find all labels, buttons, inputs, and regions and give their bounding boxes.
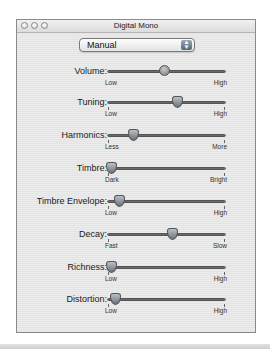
slider-label-harmonics: Harmonics:: [61, 130, 107, 140]
timbre-min-label: Dark: [105, 176, 119, 183]
digital-mono-window: Digital Mono Manual ▲▼ Volume:LowHighTun…: [16, 19, 256, 333]
slider-row-timbre-envelope: Timbre Envelope:LowHigh: [17, 201, 257, 231]
decay-max-label: Slow: [213, 242, 227, 249]
title-bar[interactable]: Digital Mono: [17, 20, 255, 33]
preset-selected-value: Manual: [87, 39, 117, 51]
timbre-slider-track[interactable]: [107, 167, 226, 170]
slider-label-richness: Richness:: [67, 262, 107, 272]
volume-min-label: Low: [105, 79, 117, 86]
tuning-max-label: High: [214, 110, 227, 117]
timbre-slider-knob[interactable]: [106, 162, 117, 174]
richness-slider-knob[interactable]: [106, 261, 117, 273]
slider-row-tuning: Tuning:LowHigh: [17, 102, 257, 132]
slider-label-decay: Decay:: [79, 229, 107, 239]
volume-slider-track[interactable]: [107, 70, 226, 73]
decay-slider-track[interactable]: [107, 233, 226, 236]
slider-label-timbre: Timbre:: [77, 163, 107, 173]
richness-min-label: Low: [105, 275, 117, 282]
preset-popup-button[interactable]: Manual ▲▼: [79, 38, 195, 52]
tuning-slider-track[interactable]: [107, 101, 226, 104]
richness-slider-track[interactable]: [107, 266, 226, 269]
slider-label-timbre-envelope: Timbre Envelope:: [37, 196, 107, 206]
timbre-envelope-slider-knob[interactable]: [114, 195, 125, 207]
harmonics-slider-knob[interactable]: [128, 129, 139, 141]
slider-row-harmonics: Harmonics:LessMore: [17, 135, 257, 165]
decay-slider-knob[interactable]: [167, 228, 178, 240]
volume-max-label: High: [214, 79, 227, 86]
slider-label-volume: Volume:: [74, 66, 107, 76]
harmonics-min-label: Less: [105, 143, 119, 150]
tuning-min-label: Low: [105, 110, 117, 117]
timbre-envelope-max-label: High: [214, 209, 227, 216]
timbre-envelope-min-label: Low: [105, 209, 117, 216]
slider-label-distortion: Distortion:: [66, 294, 107, 304]
harmonics-slider-track[interactable]: [107, 134, 226, 137]
distortion-min-label: Low: [105, 307, 117, 314]
richness-max-label: High: [214, 275, 227, 282]
window-title: Digital Mono: [17, 20, 255, 32]
distortion-max-label: High: [214, 307, 227, 314]
timbre-envelope-slider-track[interactable]: [107, 200, 226, 203]
updown-arrows-icon: ▲▼: [181, 40, 192, 50]
decay-min-label: Fast: [105, 242, 118, 249]
slider-label-tuning: Tuning:: [77, 97, 107, 107]
distortion-slider-knob[interactable]: [110, 293, 121, 305]
tuning-slider-knob[interactable]: [172, 96, 183, 108]
timbre-max-label: Bright: [210, 176, 227, 183]
volume-slider-knob[interactable]: [159, 65, 170, 76]
harmonics-max-label: More: [212, 143, 227, 150]
slider-row-timbre: Timbre:DarkBright: [17, 168, 257, 198]
slider-row-richness: Richness:LowHigh: [17, 267, 257, 297]
slider-row-volume: Volume:LowHigh: [17, 71, 257, 101]
desktop-strip: [0, 344, 270, 349]
distortion-slider-track[interactable]: [107, 298, 226, 301]
slider-row-distortion: Distortion:LowHigh: [17, 299, 257, 329]
slider-row-decay: Decay:FastSlow: [17, 234, 257, 264]
